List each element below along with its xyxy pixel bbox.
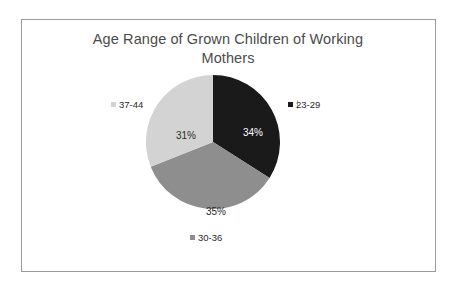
pie-category-text-23-29: 23-29 <box>296 99 320 110</box>
pie-value-label-37-44: 31% <box>176 130 196 141</box>
legend-marker-icon-23-29 <box>288 102 293 107</box>
legend-marker-icon-30-36 <box>190 235 195 240</box>
pie-category-label-37-44: 37-44 <box>111 99 143 110</box>
pie-value-label-23-29: 34% <box>243 127 263 138</box>
pie-plot-area: 34% 35% 31% 23-29 30-36 37-44 <box>22 20 437 273</box>
legend-marker-icon-37-44 <box>111 102 116 107</box>
chart-frame: Age Range of Grown Children of Working M… <box>21 19 436 272</box>
pie-category-text-37-44: 37-44 <box>119 99 143 110</box>
pie-category-label-23-29: 23-29 <box>288 99 320 110</box>
pie-category-text-30-36: 30-36 <box>198 232 222 243</box>
pie-category-label-30-36: 30-36 <box>190 232 222 243</box>
pie-value-label-30-36: 35% <box>206 206 226 217</box>
pie-chart <box>143 72 283 212</box>
